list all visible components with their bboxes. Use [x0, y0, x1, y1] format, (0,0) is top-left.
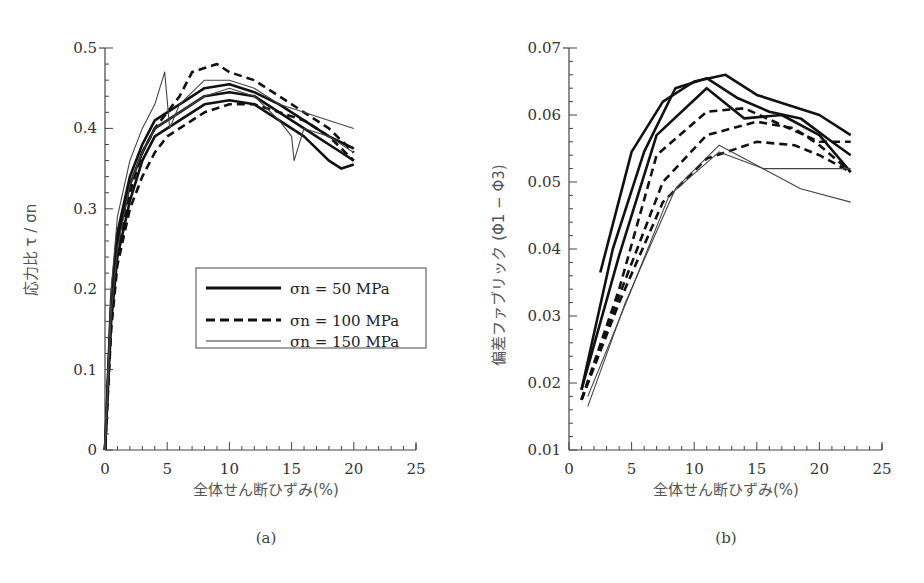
- chart-panel-a: 051015202500.10.20.30.40.5 応力比 τ / σn 全体…: [22, 39, 426, 547]
- y-tick-label: 0.07: [528, 39, 561, 57]
- chart-panel-b: 05101520250.010.020.030.040.050.060.07 偏…: [490, 39, 892, 547]
- y-tick-label: 0: [87, 441, 97, 459]
- chart-a-y-label: 応力比 τ / σn: [22, 204, 40, 296]
- y-tick-label: 0.06: [528, 106, 561, 124]
- data-line: [105, 64, 354, 450]
- chart-b-y-label: 偏差ファブリック (Φ1 − Φ3): [490, 164, 508, 365]
- y-tick-label: 0.2: [73, 280, 97, 298]
- y-tick-label: 0.03: [528, 307, 561, 325]
- data-line: [582, 78, 851, 390]
- legend-label-50: σn = 50 MPa: [290, 280, 390, 298]
- y-tick-label: 0.01: [528, 441, 561, 459]
- x-tick-label: 5: [627, 460, 637, 478]
- figure: 051015202500.10.20.30.40.5 応力比 τ / σn 全体…: [0, 0, 924, 583]
- data-line: [105, 84, 354, 450]
- panel-a-caption: (a): [256, 529, 277, 547]
- panel-b-caption: (b): [715, 529, 736, 547]
- y-tick-label: 0.5: [73, 39, 97, 57]
- x-tick-label: 20: [344, 460, 363, 478]
- chart-b-series: [582, 75, 851, 407]
- y-tick-label: 0.04: [528, 240, 561, 258]
- x-tick-label: 25: [406, 460, 425, 478]
- y-tick-label: 0.1: [73, 361, 97, 379]
- x-tick-label: 0: [100, 460, 110, 478]
- x-tick-label: 20: [810, 460, 829, 478]
- legend-label-100: σn = 100 MPa: [290, 312, 399, 330]
- chart-b-axes: 05101520250.010.020.030.040.050.060.07: [528, 39, 892, 478]
- data-line: [582, 142, 851, 400]
- legend: σn = 50 MPa σn = 100 MPa σn = 150 MPa: [196, 268, 426, 351]
- x-tick-label: 25: [872, 460, 891, 478]
- x-tick-label: 0: [564, 460, 574, 478]
- y-tick-label: 0.3: [73, 200, 97, 218]
- data-line: [582, 122, 851, 400]
- legend-label-150: σn = 150 MPa: [290, 333, 399, 351]
- x-tick-label: 10: [220, 460, 239, 478]
- chart-a-axes: 051015202500.10.20.30.40.5: [73, 39, 425, 478]
- chart-a-x-label: 全体せん断ひずみ(%): [193, 481, 339, 499]
- x-tick-label: 15: [747, 460, 766, 478]
- y-tick-label: 0.4: [73, 119, 97, 137]
- chart-b-x-label: 全体せん断ひずみ(%): [653, 481, 799, 499]
- y-tick-label: 0.05: [528, 173, 561, 191]
- y-tick-label: 0.02: [528, 374, 561, 392]
- x-tick-label: 15: [282, 460, 301, 478]
- chart-a-series: [105, 64, 354, 450]
- x-tick-label: 5: [162, 460, 172, 478]
- x-tick-label: 10: [685, 460, 704, 478]
